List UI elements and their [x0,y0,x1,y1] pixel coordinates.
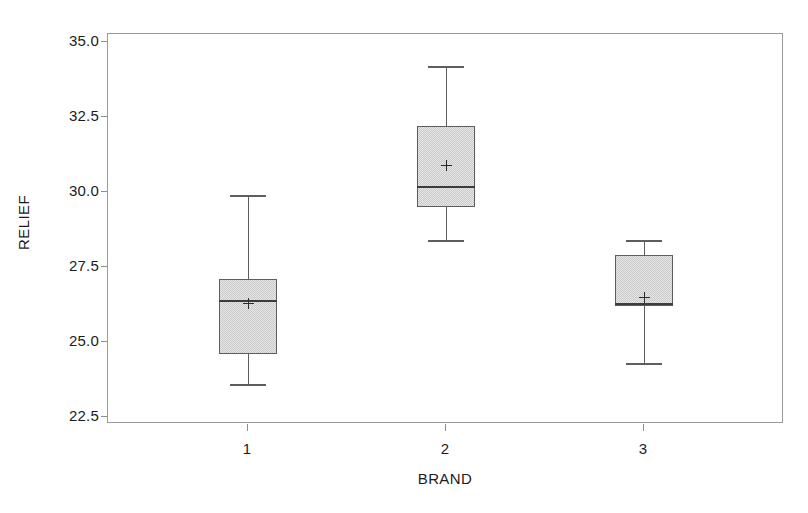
lower-whisker-cap [230,384,266,386]
plot-area [107,33,783,423]
x-tick-mark [247,424,248,431]
x-tick-mark [643,424,644,431]
x-axis-title-text: BRAND [418,470,473,487]
y-axis-tick-labels: 35.032.530.027.525.022.5 [0,0,99,513]
median-line [417,186,475,188]
mean-marker-plus-icon [243,298,254,309]
upper-whisker [248,195,249,279]
upper-whisker-cap [428,66,464,68]
lower-whisker-cap [428,240,464,242]
lower-whisker [644,306,645,363]
median-line [615,303,673,305]
mean-marker-plus-icon [639,292,650,303]
x-tick-label: 3 [623,441,663,456]
lower-whisker-cap [626,363,662,365]
lower-whisker [446,207,447,240]
upper-whisker-cap [230,195,266,197]
upper-whisker-cap [626,240,662,242]
upper-whisker [644,240,645,255]
y-tick-label: 35.0 [69,33,99,48]
x-tick-label: 2 [425,441,465,456]
upper-whisker [446,66,447,126]
y-tick-label: 32.5 [69,108,99,123]
boxplot-figure: RELIEF 35.032.530.027.525.022.5 123 BRAN… [0,0,808,513]
lower-whisker [248,354,249,384]
mean-marker-plus-icon [441,160,452,171]
y-tick-label: 25.0 [69,333,99,348]
x-tick-mark [445,424,446,431]
box-iqr-rect[interactable] [219,279,277,354]
y-tick-label: 30.0 [69,183,99,198]
x-tick-label: 1 [227,441,267,456]
y-tick-label: 27.5 [69,258,99,273]
x-axis-title: BRAND [0,470,808,487]
y-tick-label: 22.5 [69,408,99,423]
